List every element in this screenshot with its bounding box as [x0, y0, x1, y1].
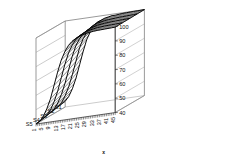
- x-tick-label: 29: [81, 121, 87, 127]
- z-tick-label: 100: [119, 24, 128, 30]
- surface-chart: 159131721252933374145x405060708090100S1S…: [0, 0, 234, 168]
- x-tick-label: 5: [38, 127, 44, 130]
- series-axis-label: S1: [55, 104, 62, 110]
- x-tick-label: 1: [31, 129, 37, 132]
- x-tick-label: 45: [110, 117, 116, 123]
- x-tick-label: 9: [45, 126, 51, 129]
- series-axis-label: S5: [26, 121, 33, 127]
- z-tick-label: 70: [119, 67, 125, 73]
- x-tick-label: 41: [103, 118, 109, 124]
- series-axis-label: S4: [33, 117, 40, 123]
- x-tick-label: 33: [89, 120, 95, 126]
- z-tick-label: 80: [119, 52, 125, 58]
- x-tick-label: 21: [67, 123, 73, 129]
- z-tick-label: 40: [119, 110, 125, 116]
- z-tick-label: 60: [119, 81, 125, 87]
- series-axis-label: S3: [40, 113, 47, 119]
- x-tick-label: 13: [53, 125, 59, 131]
- z-tick-label: 90: [119, 38, 125, 44]
- x-tick-label: 37: [96, 119, 102, 125]
- x-axis-title: x: [102, 149, 105, 155]
- x-tick-label: 17: [60, 124, 66, 130]
- z-tick-label: 50: [119, 95, 125, 101]
- x-tick-label: 25: [74, 122, 80, 128]
- axis-label-layer: 159131721252933374145x405060708090100S1S…: [0, 0, 234, 168]
- series-axis-label: S2: [48, 108, 55, 114]
